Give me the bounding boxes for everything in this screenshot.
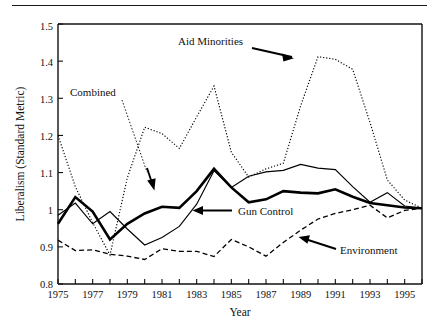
y-axis-title: Liberalism (Standard Metric): [14, 86, 27, 221]
x-tick-label-1989: 1989: [290, 289, 311, 300]
x-tick-label-1977: 1977: [82, 289, 103, 300]
annotation-label-aid-minorities: Aid Minorities: [178, 35, 243, 47]
x-tick-label-1995: 1995: [394, 289, 415, 300]
liberalism-line-chart: 0.8 0.9 1 1.1 1.2 1.3 1.4 1.5 1975197719…: [0, 0, 439, 334]
annotation-label-environment: Environment: [340, 244, 397, 256]
x-tick-label-1983: 1983: [186, 289, 207, 300]
x-tick-label-1991: 1991: [325, 289, 346, 300]
x-tick-label-1979: 1979: [117, 289, 138, 300]
x-tick-label-1975: 1975: [48, 289, 69, 300]
x-tick-labels: 1975197719791981198319851987198919911993…: [48, 289, 416, 300]
arrow-head-combined: [147, 178, 155, 190]
annotation-environment: Environment: [299, 235, 398, 256]
x-tick-label-1985: 1985: [221, 289, 242, 300]
x-tick-group: [58, 279, 422, 284]
annotation-aid-minorities: Aid Minorities: [178, 35, 294, 61]
annotation-label-combined: Combined: [70, 86, 116, 98]
arrow-head-aid-minorities: [282, 54, 294, 62]
y-tick-label-7: 1.5: [40, 21, 53, 32]
x-axis-title: Year: [229, 306, 250, 318]
figure-container: 0.8 0.9 1 1.1 1.2 1.3 1.4 1.5 1975197719…: [0, 0, 439, 334]
annotation-gun-control: Gun Control: [193, 205, 294, 217]
y-tick-label-1: 0.9: [40, 242, 53, 253]
annotation-label-gun-control: Gun Control: [238, 205, 293, 217]
annotation-combined: Combined: [70, 86, 156, 191]
y-tick-label-5: 1.3: [40, 94, 53, 105]
y-tick-labels: 0.8 0.9 1 1.1 1.2 1.3 1.4 1.5: [40, 21, 54, 291]
y-tick-label-2: 1: [48, 205, 53, 216]
x-tick-label-1993: 1993: [360, 289, 381, 300]
x-tick-label-1987: 1987: [256, 289, 277, 300]
leader-line-combined: [122, 100, 147, 172]
y-tick-label-4: 1.2: [40, 131, 53, 142]
y-tick-label-6: 1.4: [40, 57, 54, 68]
arrow-head-environment: [299, 235, 310, 244]
y-tick-label-3: 1.1: [40, 168, 53, 179]
y-tick-group: [58, 24, 63, 284]
x-tick-label-1981: 1981: [152, 289, 173, 300]
